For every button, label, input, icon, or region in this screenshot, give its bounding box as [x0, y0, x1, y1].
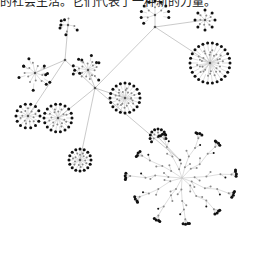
tree-leaf-node — [133, 195, 136, 198]
leaf-node — [90, 159, 93, 162]
inner-node — [25, 123, 27, 125]
inner-node — [63, 113, 65, 115]
cluster-center-node — [154, 14, 156, 16]
tree-inner-node — [194, 147, 196, 149]
leaf-node — [140, 10, 143, 13]
leaf-node — [43, 121, 46, 124]
leaf-node — [160, 128, 163, 131]
leaf-node — [27, 57, 30, 60]
tree-inner-node — [175, 188, 177, 190]
leaf-node — [63, 18, 66, 21]
leaf-node — [59, 103, 62, 106]
leaf-node — [197, 78, 200, 81]
inner-node — [24, 120, 26, 122]
inner-node — [41, 80, 43, 82]
leaf-node — [64, 104, 67, 107]
leaf-node — [150, 140, 153, 143]
tree-node — [199, 157, 201, 159]
hub-node — [179, 159, 182, 162]
tree-node — [196, 167, 198, 169]
tree-inner-node — [169, 180, 171, 182]
leaf-node — [73, 69, 76, 72]
leaf-node — [220, 78, 223, 81]
leaf-node — [211, 42, 214, 45]
leaf-node — [59, 27, 62, 30]
tree-leaf-node — [200, 133, 203, 136]
leaf-node — [37, 109, 40, 112]
leaf-node — [189, 57, 192, 60]
tree-inner-node — [157, 215, 159, 217]
inner-node — [204, 69, 206, 71]
inner-node — [91, 74, 93, 76]
cluster-center-node — [27, 115, 29, 117]
inner-node — [209, 51, 211, 53]
tree-node — [155, 194, 157, 196]
tree-inner-node — [154, 174, 156, 176]
tree-node — [163, 172, 165, 174]
inner-node — [199, 65, 201, 67]
leaf-node — [71, 166, 74, 169]
hub-node — [154, 26, 157, 29]
cluster-center-node — [57, 117, 59, 119]
leaf-node — [143, 5, 146, 8]
leaf-node — [196, 11, 199, 14]
inner-node — [120, 104, 122, 106]
tree-node — [168, 140, 170, 142]
inner-node — [68, 18, 70, 20]
leaf-node — [228, 66, 231, 69]
inner-node — [27, 75, 29, 77]
inner-node — [211, 49, 213, 51]
tree-inner-node — [194, 176, 196, 178]
inner-node — [20, 117, 22, 119]
leaf-node — [37, 120, 40, 123]
leaf-node — [148, 1, 151, 4]
leaf-node — [43, 117, 46, 120]
inner-node — [48, 120, 50, 122]
leaf-node — [115, 84, 118, 87]
inner-node — [87, 62, 89, 64]
leaf-node — [29, 103, 32, 106]
leaf-node — [16, 109, 19, 112]
leaf-node — [189, 66, 192, 69]
leaf-node — [201, 80, 204, 83]
tree-node — [210, 171, 212, 173]
inner-node — [118, 100, 120, 102]
inner-node — [160, 10, 162, 12]
tree-node — [166, 153, 168, 155]
leaf-node — [19, 124, 22, 127]
tree-inner-node — [205, 200, 207, 202]
leaf-node — [111, 88, 114, 91]
inner-node — [32, 62, 34, 64]
leaf-node — [154, 0, 157, 3]
leaf-node — [115, 109, 118, 112]
inner-node — [222, 60, 224, 62]
inner-node — [41, 74, 43, 76]
leaf-node — [229, 62, 232, 65]
leaf-node — [97, 79, 100, 82]
tree-leaf-node — [124, 172, 127, 175]
tree-inner-node — [149, 160, 151, 162]
inner-node — [31, 111, 33, 113]
tree-inner-node — [207, 153, 209, 155]
leaf-node — [191, 52, 194, 55]
inner-node — [84, 160, 86, 162]
leaf-node — [29, 126, 32, 129]
inner-node — [217, 62, 219, 64]
tree-node — [199, 180, 201, 182]
inner-node — [80, 166, 82, 168]
tree-leaf-node — [139, 150, 142, 153]
inner-node — [85, 162, 87, 164]
leaf-node — [68, 154, 71, 157]
inner-node — [94, 75, 96, 77]
tree-inner-node — [184, 218, 186, 220]
leaf-node — [44, 73, 47, 76]
tree-node — [171, 200, 173, 202]
inner-node — [37, 65, 39, 67]
leaf-node — [90, 54, 93, 57]
leaf-node — [43, 112, 46, 115]
tree-inner-node — [205, 176, 207, 178]
cluster-center-node — [67, 24, 69, 26]
leaf-node — [109, 92, 112, 95]
inner-node — [130, 97, 132, 99]
tree-inner-node — [157, 188, 159, 190]
